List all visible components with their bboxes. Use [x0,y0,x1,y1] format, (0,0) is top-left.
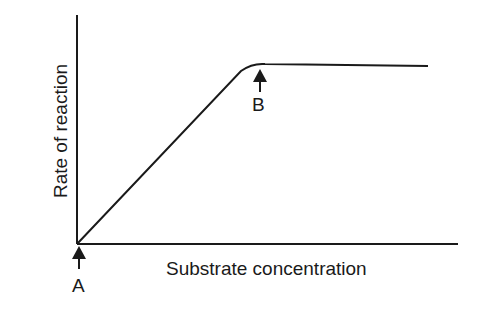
marker-a-label: A [72,275,85,297]
x-axis-label: Substrate concentration [166,258,367,280]
arrow-b-icon [253,69,267,92]
rate-curve [77,64,428,244]
y-axis-label: Rate of reaction [50,26,72,236]
marker-b-label: B [252,94,265,116]
arrow-a-icon [72,246,86,269]
